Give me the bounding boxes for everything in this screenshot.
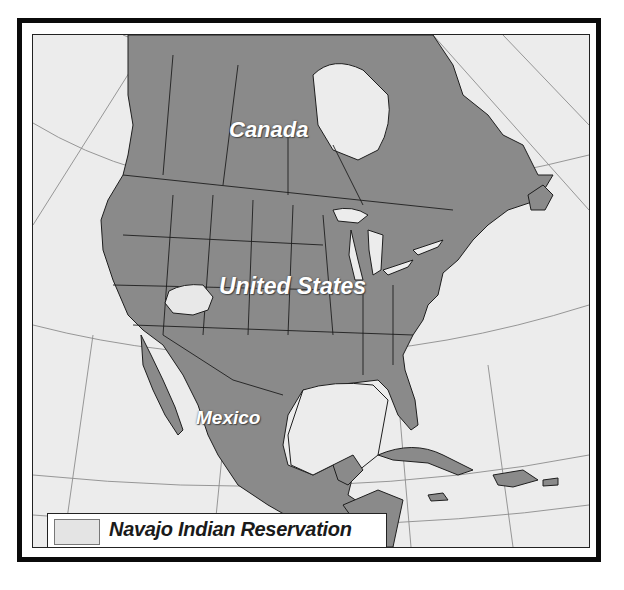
legend-swatch xyxy=(54,519,100,545)
mexico-label: Mexico xyxy=(196,407,260,429)
map-legend: Navajo Indian Reservation xyxy=(47,513,387,548)
canada-label: Canada xyxy=(229,117,308,143)
united-states-label: United States xyxy=(219,273,366,300)
north-america-map: Canada United States Mexico Navajo India… xyxy=(32,34,590,548)
navajo-reservation-area xyxy=(165,285,213,315)
legend-label: Navajo Indian Reservation xyxy=(109,518,352,541)
